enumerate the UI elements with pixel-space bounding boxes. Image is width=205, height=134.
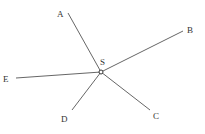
node-label-c: C bbox=[153, 111, 159, 121]
node-label-s: S bbox=[100, 57, 105, 67]
star-diagram: ABCDE S bbox=[0, 0, 205, 134]
node-label-b: B bbox=[187, 25, 193, 35]
center-node-s bbox=[99, 70, 103, 74]
node-label-a: A bbox=[57, 9, 64, 19]
edge-s-c bbox=[101, 72, 150, 110]
node-label-d: D bbox=[61, 114, 68, 124]
edge-s-d bbox=[72, 72, 101, 110]
edge-s-e bbox=[16, 72, 101, 78]
edge-s-a bbox=[68, 13, 101, 72]
edge-s-b bbox=[101, 31, 183, 72]
node-label-e: E bbox=[3, 74, 9, 84]
